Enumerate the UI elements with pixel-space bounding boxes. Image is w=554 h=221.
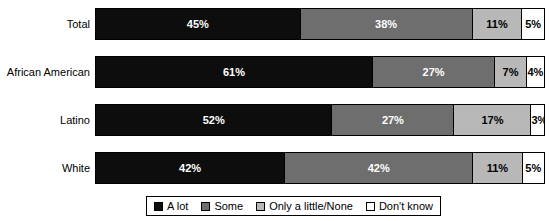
legend-label: Only a little/None: [269, 201, 353, 212]
bar-track: 61%27%7%4%: [95, 56, 545, 88]
bar-track: 52%27%17%3%: [95, 104, 545, 136]
bar-segment: 38%: [300, 9, 472, 39]
legend-swatch-icon: [366, 202, 375, 211]
segment-value-label: 7%: [503, 66, 519, 78]
bar-segment: 4%: [526, 57, 544, 87]
legend-label: Some: [214, 201, 243, 212]
bar-segment: 52%: [96, 105, 331, 135]
bar-segment: 7%: [494, 57, 526, 87]
bar-segment: 5%: [522, 153, 544, 183]
legend-label: Don't know: [379, 201, 433, 212]
legend-swatch-icon: [256, 202, 265, 211]
legend-item[interactable]: Don't know: [366, 201, 433, 212]
segment-value-label: 42%: [179, 162, 201, 174]
bar-row: African American61%27%7%4%: [0, 56, 554, 88]
segment-value-label: 52%: [203, 114, 225, 126]
bar-row: Total45%38%11%5%: [0, 8, 554, 40]
bar-segment: 5%: [521, 9, 544, 39]
segment-value-label: 17%: [481, 114, 503, 126]
legend-swatch-icon: [201, 202, 210, 211]
segment-value-label: 4%: [527, 66, 543, 78]
bar-segment: 27%: [372, 57, 494, 87]
segment-value-label: 27%: [423, 66, 445, 78]
segment-value-label: 5%: [525, 18, 541, 30]
bar-segment: 45%: [96, 9, 300, 39]
segment-value-label: 61%: [223, 66, 245, 78]
bar-segment: 42%: [284, 153, 472, 183]
row-label-0: Total: [0, 8, 90, 40]
bar-segment: 61%: [96, 57, 372, 87]
bar-segment: 11%: [472, 9, 522, 39]
stacked-bar-chart: Total45%38%11%5%African American61%27%7%…: [0, 0, 554, 221]
row-label-3: White: [0, 152, 90, 184]
legend-label: A lot: [167, 201, 188, 212]
bar-row: Latino52%27%17%3%: [0, 104, 554, 136]
bar-segment: 17%: [453, 105, 530, 135]
legend-item[interactable]: Some: [201, 201, 243, 212]
segment-value-label: 3%: [531, 114, 545, 126]
segment-value-label: 5%: [525, 162, 541, 174]
bar-segment: 11%: [472, 153, 521, 183]
bar-segment: 3%: [530, 105, 545, 135]
segment-value-label: 11%: [486, 18, 507, 30]
bar-track: 42%42%11%5%: [95, 152, 545, 184]
legend-item[interactable]: A lot: [154, 201, 188, 212]
row-label-2: Latino: [0, 104, 90, 136]
bar-segment: 42%: [96, 153, 284, 183]
segment-value-label: 45%: [187, 18, 209, 30]
bar-row: White42%42%11%5%: [0, 152, 554, 184]
bar-track: 45%38%11%5%: [95, 8, 545, 40]
segment-value-label: 27%: [382, 114, 404, 126]
legend-swatch-icon: [154, 202, 163, 211]
row-label-1: African American: [0, 56, 90, 88]
chart-legend: A lotSomeOnly a little/NoneDon't know: [146, 196, 441, 216]
bar-segment: 27%: [331, 105, 453, 135]
legend-item[interactable]: Only a little/None: [256, 201, 353, 212]
segment-value-label: 42%: [368, 162, 390, 174]
segment-value-label: 11%: [487, 162, 508, 174]
segment-value-label: 38%: [375, 18, 397, 30]
